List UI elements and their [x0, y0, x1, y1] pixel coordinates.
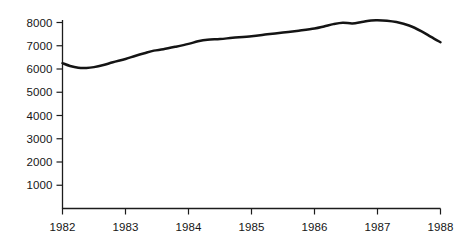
y-tick-label-8000: 8000 — [27, 17, 53, 29]
y-tick-label-4000: 4000 — [27, 110, 53, 122]
y-tick-label-3000: 3000 — [27, 133, 53, 145]
x-tick-label-1983: 1983 — [113, 221, 139, 233]
y-tick-label-2000: 2000 — [27, 156, 53, 168]
y-tick-label-1000: 1000 — [27, 179, 53, 191]
x-tick-label-1985: 1985 — [239, 221, 265, 233]
chart-canvas: 10002000300040005000600070008000 1982198… — [0, 0, 459, 240]
x-tick-label-1988: 1988 — [428, 221, 454, 233]
y-tick-label-7000: 7000 — [27, 40, 53, 52]
y-tick-labels: 10002000300040005000600070008000 — [27, 17, 53, 192]
x-axis: 1982198319841985198619871988 — [50, 209, 454, 233]
x-tick-label-1987: 1987 — [365, 221, 391, 233]
x-tick-label-1984: 1984 — [176, 221, 202, 233]
y-axis: 10002000300040005000600070008000 — [27, 17, 63, 210]
data-line-series-1 — [63, 20, 441, 68]
line-chart: 10002000300040005000600070008000 1982198… — [0, 0, 459, 240]
x-tick-label-1982: 1982 — [50, 221, 76, 233]
x-tick-marks — [63, 209, 441, 215]
y-tick-label-6000: 6000 — [27, 63, 53, 75]
x-tick-label-1986: 1986 — [302, 221, 328, 233]
y-tick-label-5000: 5000 — [27, 86, 53, 98]
y-tick-marks — [57, 23, 63, 186]
data-series-group — [63, 20, 441, 68]
x-tick-labels: 1982198319841985198619871988 — [50, 221, 454, 233]
